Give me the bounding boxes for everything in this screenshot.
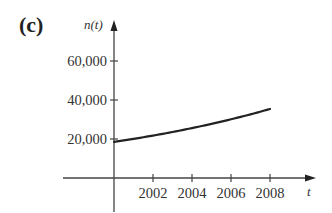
y-tick-label: 20,000	[67, 131, 107, 147]
y-tick-label: 60,000	[67, 53, 107, 69]
axes	[63, 20, 316, 212]
data-curve	[114, 109, 270, 142]
x-tick-label: 2004	[178, 185, 208, 201]
x-axis-arrow-icon	[305, 175, 316, 182]
x-tick-label: 2002	[139, 185, 168, 201]
x-tick-label: 2008	[256, 185, 285, 201]
y-axis-label: n(t)	[84, 17, 103, 32]
x-axis-label: t	[307, 184, 311, 199]
y-tick-label: 40,000	[67, 92, 107, 108]
y-axis-arrow-icon	[111, 20, 118, 31]
x-tick-label: 2006	[217, 185, 246, 201]
ticks: 20,00040,00060,0002002200420062008	[67, 53, 284, 201]
chart: 20,00040,00060,0002002200420062008 n(t) …	[0, 0, 332, 213]
